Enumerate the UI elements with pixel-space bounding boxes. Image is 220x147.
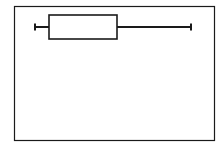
box-plot-chart	[0, 0, 220, 147]
interquartile-box	[49, 15, 117, 39]
